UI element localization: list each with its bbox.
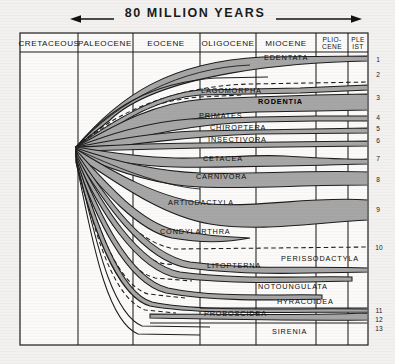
taxon-label-primates: PRIMATES xyxy=(199,111,243,120)
index-number-11: 11 xyxy=(376,307,383,314)
taxon-label-hyracoidea: HYRACOIDEA xyxy=(277,297,334,306)
index-number-10: 10 xyxy=(375,244,383,251)
chart-canvas: CRETACEOUS PALEOCENE EOCENE OLIGOCENE MI… xyxy=(0,0,395,364)
left-arrow-icon xyxy=(70,15,81,23)
index-number-5: 5 xyxy=(376,125,380,132)
taxon-label-perissodactyla: PERISSODACTYLA xyxy=(281,254,359,263)
epoch-label-miocene: MIOCENE xyxy=(265,39,307,48)
epoch-label-pleistocene-line2: IST xyxy=(352,43,363,50)
taxon-label-sirenia: SIRENIA xyxy=(272,327,307,336)
taxon-label-rodentia: RODENTIA xyxy=(258,97,303,106)
index-number-1: 1 xyxy=(376,56,380,63)
epoch-label-eocene: EOCENE xyxy=(147,39,185,48)
taxon-label-carnivora: CARNIVORA xyxy=(196,172,247,181)
taxon-label-insectivora: INSECTIVORA xyxy=(208,135,267,144)
epoch-label-oligocene: OLIGOCENE xyxy=(201,39,254,48)
taxon-label-chiroptera: CHIROPTERA xyxy=(210,123,266,132)
taxon-label-lagomorpha: LAGOMORPHA xyxy=(201,86,262,95)
index-number-4: 4 xyxy=(376,114,380,121)
epoch-label-pleistocene-line1: PLE xyxy=(351,36,365,43)
index-number-3: 3 xyxy=(376,94,380,101)
epoch-label-cretaceous: CRETACEOUS xyxy=(18,39,79,48)
epoch-label-paleocene: PALEOCENE xyxy=(78,39,132,48)
taxon-label-condylarthra: CONDYLARTHRA xyxy=(160,227,230,236)
index-number-13: 13 xyxy=(375,325,383,332)
phylogeny-figure: 80 MILLION YEARS CRETACEOUS PALEOCENE xyxy=(0,0,395,364)
epoch-label-pliocene-line1: PLIO- xyxy=(322,36,341,43)
right-index-numbers: 1 2 3 4 5 6 7 8 9 10 11 12 13 xyxy=(375,56,383,332)
taxon-label-artiodactyla: ARTIODACTYLA xyxy=(168,198,234,207)
index-number-8: 8 xyxy=(376,176,380,183)
index-number-12: 12 xyxy=(375,316,383,323)
right-arrow-icon xyxy=(351,15,362,23)
taxon-label-litopterna: LITOPTERNA xyxy=(207,261,261,270)
index-number-2: 2 xyxy=(376,71,380,78)
epoch-label-pliocene-line2: CENE xyxy=(322,43,342,50)
taxon-label-cetacea: CETACEA xyxy=(203,154,243,163)
taxon-label-notoungulata: NOTOUNGULATA xyxy=(258,282,328,291)
scale-arrow xyxy=(70,15,362,23)
index-number-9: 9 xyxy=(376,206,380,213)
taxon-label-edentata: EDENTATA xyxy=(264,53,308,62)
taxon-label-proboscidea: PROBOSCIDEA xyxy=(204,309,267,318)
index-number-7: 7 xyxy=(376,155,380,162)
index-number-6: 6 xyxy=(376,137,380,144)
